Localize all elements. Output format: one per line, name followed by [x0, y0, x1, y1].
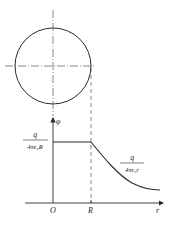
inside-numerator: q — [33, 130, 37, 139]
inside-denominator: 4πε₀R — [27, 143, 42, 150]
phi-axis-label: φ — [56, 117, 61, 126]
radius-label: R — [87, 206, 93, 215]
r-axis-label: r — [156, 206, 160, 215]
outside-numerator: q — [130, 153, 134, 162]
potential-diagram: φ O R r q 4πε₀R q 4πε₀r — [0, 0, 176, 227]
outside-denominator: 4πε₀r — [125, 166, 139, 173]
potential-curve — [53, 142, 160, 190]
origin-label: O — [50, 206, 56, 215]
